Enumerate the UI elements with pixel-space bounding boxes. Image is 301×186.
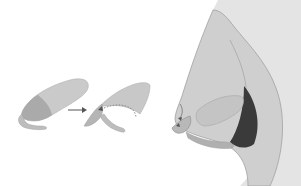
rhinoplasty-graft-illustration bbox=[0, 0, 301, 186]
transform-arrow bbox=[68, 107, 87, 113]
graft-folded bbox=[84, 83, 150, 132]
nose-profile bbox=[172, 0, 301, 186]
graft-original bbox=[19, 79, 89, 130]
